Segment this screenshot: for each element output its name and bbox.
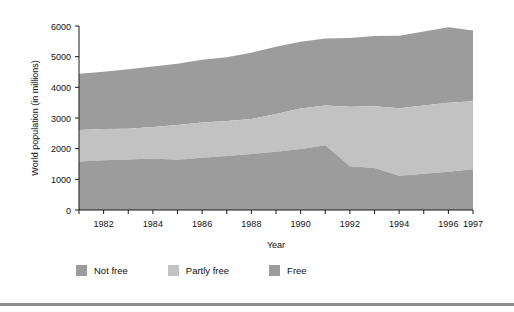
y-tick-label: 4000: [51, 83, 71, 93]
bottom-divider: [0, 303, 514, 306]
y-tick-label: 5000: [51, 52, 71, 62]
legend-item-label: Not free: [94, 265, 128, 276]
x-tick-label: 1984: [143, 219, 163, 229]
y-axis-title: World population (in millions): [30, 60, 40, 175]
plot-area: [79, 27, 473, 210]
x-axis-title: Year: [267, 240, 285, 250]
y-axis-ticks: 0100020003000400050006000: [51, 22, 79, 216]
x-tick-label: 1988: [241, 219, 261, 229]
y-tick-label: 0: [66, 206, 71, 216]
figure-container: 0100020003000400050006000 World populati…: [0, 0, 514, 312]
chart-legend: Not freePartly freeFree: [76, 265, 347, 276]
y-tick-label: 2000: [51, 144, 71, 154]
legend-swatch-icon: [269, 265, 280, 276]
x-axis: 198219841986198819901992199419961997 Yea…: [79, 210, 483, 250]
legend-swatch-icon: [76, 265, 87, 276]
legend-item[interactable]: Partly free: [168, 265, 229, 276]
x-tick-label: 1997: [463, 219, 483, 229]
legend-swatch-icon: [168, 265, 179, 276]
y-tick-label: 6000: [51, 22, 71, 32]
x-tick-label: 1982: [94, 219, 114, 229]
legend-item[interactable]: Not free: [76, 265, 128, 276]
legend-item[interactable]: Free: [269, 265, 307, 276]
x-tick-label: 1992: [340, 219, 360, 229]
stacked-area-chart: 0100020003000400050006000 World populati…: [0, 0, 514, 262]
x-axis-ticks: 198219841986198819901992199419961997: [79, 210, 483, 229]
x-tick-label: 1990: [291, 219, 311, 229]
legend-item-label: Free: [287, 265, 307, 276]
legend-item-label: Partly free: [186, 265, 229, 276]
y-axis: 0100020003000400050006000 World populati…: [30, 22, 79, 216]
y-tick-label: 3000: [51, 114, 71, 124]
x-tick-label: 1996: [438, 219, 458, 229]
y-tick-label: 1000: [51, 175, 71, 185]
x-tick-label: 1994: [389, 219, 409, 229]
x-tick-label: 1986: [192, 219, 212, 229]
